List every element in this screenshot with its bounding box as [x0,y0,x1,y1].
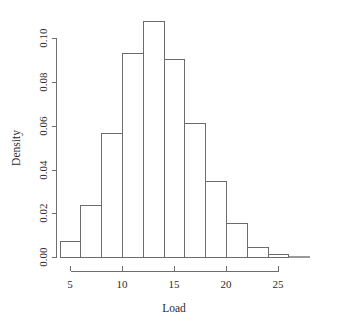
y-tick-label-5: 0.10 [37,28,49,48]
bar-bin-10-12 [123,54,144,258]
bar-bin-20-22 [227,224,248,258]
bar-bin-4-6 [60,242,81,258]
x-tick-label-0: 5 [67,278,73,290]
bar-bin-24-26 [268,255,289,258]
y-axis-title: Density [10,130,23,166]
histogram-plot: 0.10 0.08 0.06 0.04 0.02 0.00 Density [0,0,337,327]
y-tick-label-4: 0.08 [37,72,49,92]
x-tick-label-4: 25 [273,278,285,290]
bar-bin-16-18 [185,123,206,257]
bar-bin-14-16 [164,59,185,257]
x-tick-label-2: 15 [169,278,181,290]
bar-bin-18-20 [206,182,227,258]
x-tick-label-3: 20 [221,278,233,290]
y-tick-label-3: 0.06 [37,116,49,136]
x-axis-title: Load [162,302,186,314]
bar-bin-6-8 [81,205,102,257]
y-tick-label-1: 0.02 [37,203,49,222]
histogram-canvas: 0.10 0.08 0.06 0.04 0.02 0.00 Density [0,0,337,327]
bar-bin-22-24 [247,248,268,258]
bar-bin-12-14 [143,22,164,258]
bar-bin-8-10 [102,134,123,258]
y-tick-label-0: 0.00 [37,247,49,267]
x-tick-label-1: 10 [117,278,129,290]
y-tick-label-2: 0.04 [37,160,49,180]
